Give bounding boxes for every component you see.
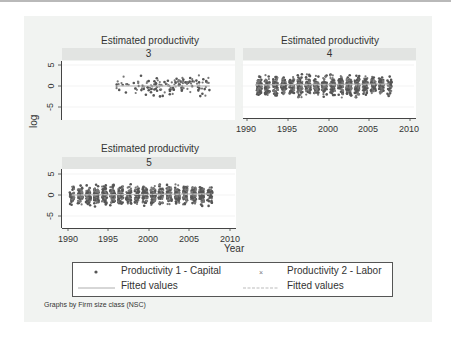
footnote: Graphs by Firm size class (NSC)	[44, 301, 146, 308]
dot-marker-icon	[94, 270, 97, 273]
x-marker-icon: ×	[259, 269, 263, 276]
legend: × Productivity 1 - Capital Productivity …	[72, 262, 393, 297]
legend-item-labor: Productivity 2 - Labor	[287, 265, 382, 276]
legend-item-fitted-1: Fitted values	[121, 280, 178, 291]
legend-item-fitted-2: Fitted values	[287, 280, 344, 291]
legend-item-capital: Productivity 1 - Capital	[121, 265, 221, 276]
